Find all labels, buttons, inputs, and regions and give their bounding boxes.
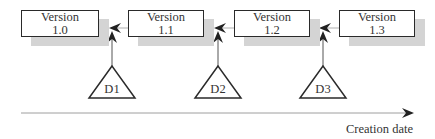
- version-delta-diagram: Version 1.0 Version 1.1 Version 1.2 Vers…: [0, 0, 435, 139]
- version-box-1-3: Version 1.3: [339, 10, 415, 37]
- version-box-1-2: Version 1.2: [234, 10, 310, 37]
- version-number: 1.0: [52, 24, 68, 37]
- version-title: Version: [147, 11, 185, 24]
- version-number: 1.2: [264, 24, 280, 37]
- version-box-1-1: Version 1.1: [128, 10, 204, 37]
- version-box-1-0: Version 1.0: [21, 10, 99, 37]
- delta-label-d2: D2: [203, 82, 233, 97]
- axis-label: Creation date: [346, 122, 413, 137]
- version-number: 1.1: [158, 24, 174, 37]
- version-title: Version: [358, 11, 396, 24]
- version-title: Version: [41, 11, 79, 24]
- version-number: 1.3: [369, 24, 385, 37]
- version-title: Version: [253, 11, 291, 24]
- delta-label-d3: D3: [308, 82, 338, 97]
- delta-label-d1: D1: [97, 82, 127, 97]
